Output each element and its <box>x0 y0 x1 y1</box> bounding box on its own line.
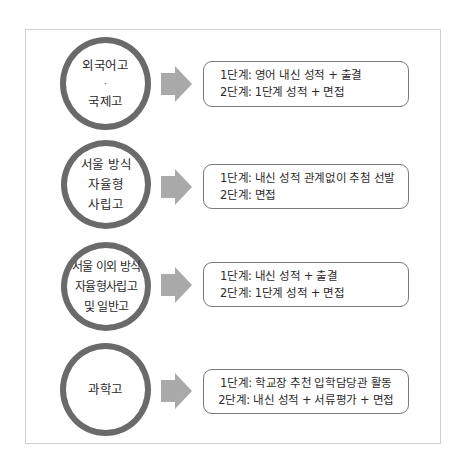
step-2-text: 2단계: 면접 <box>220 187 392 204</box>
right-arrow-icon <box>161 169 192 205</box>
admission-steps-box: 1단계: 학교장 추천 입학담당관 활동 2단계: 내신 성적 + 서류평가 +… <box>203 369 409 414</box>
right-arrow-icon <box>161 373 192 409</box>
school-type-label: 서울 이외 방식 <box>72 258 141 276</box>
school-type-label: 및 일반고 <box>84 298 129 316</box>
admission-steps-box: 1단계: 내신 성적 + 출결 2단계: 1단계 성적 + 면접 <box>203 262 409 307</box>
step-1-text: 1단계: 내신 성적 관계없이 추첨 선발 <box>220 170 392 187</box>
step-1-text: 1단계: 학교장 추천 입학담당관 활동 <box>220 375 392 392</box>
step-1-text: 1단계: 내신 성적 + 출결 <box>220 268 392 285</box>
school-type-circle-seoul-autonomous-private: 서울 방식 자율형 사립고 <box>61 140 151 229</box>
school-type-circle-foreign-language: 외국어고 · 국제고 <box>60 37 151 130</box>
school-type-label: 자율형사립고 <box>75 278 137 296</box>
school-type-separator: · <box>104 78 107 90</box>
school-type-label: 외국어고 <box>82 57 129 75</box>
admission-steps-box: 1단계: 영어 내신 성적 + 출결 2단계: 1단계 성적 + 면접 <box>203 61 409 107</box>
school-type-label: 사립고 <box>88 196 123 214</box>
school-type-label: 국제고 <box>88 93 123 111</box>
step-2-text: 2단계: 내신 성적 + 서류평가 + 면접 <box>218 392 394 409</box>
step-1-text: 1단계: 영어 내신 성적 + 출결 <box>220 67 392 84</box>
school-type-label: 서울 방식 <box>81 156 131 174</box>
right-arrow-icon <box>161 267 192 303</box>
right-arrow-icon <box>161 66 192 102</box>
step-2-text: 2단계: 1단계 성적 + 면접 <box>220 84 392 101</box>
school-type-label: 과학고 <box>88 381 123 399</box>
admission-steps-box: 1단계: 내신 성적 관계없이 추첨 선발 2단계: 면접 <box>203 164 409 209</box>
step-2-text: 2단계: 1단계 성적 + 면접 <box>220 285 392 302</box>
school-type-label: 자율형 <box>88 176 123 194</box>
school-type-circle-non-seoul-autonomous-private-general: 서울 이외 방식 자율형사립고 및 일반고 <box>61 242 151 331</box>
school-type-circle-science: 과학고 <box>60 343 151 436</box>
